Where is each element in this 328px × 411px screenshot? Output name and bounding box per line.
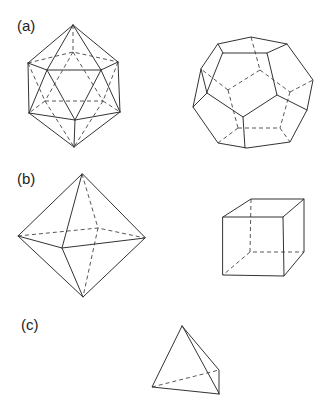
cube-icon: [223, 199, 304, 276]
icosahedron-icon: [28, 25, 120, 147]
octahedron-icon: [18, 174, 145, 297]
polyhedra-figure: (a) (b) (c): [0, 0, 328, 411]
tetrahedron-icon: [152, 326, 219, 394]
dodecahedron-icon: [193, 37, 313, 148]
polyhedra-drawing: [0, 0, 328, 411]
